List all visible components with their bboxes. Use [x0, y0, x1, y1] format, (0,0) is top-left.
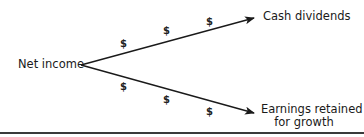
- source-label-net-income: Net income: [18, 58, 84, 71]
- dollar-sign-icon: $: [206, 106, 213, 117]
- dollar-sign-icon: $: [163, 25, 170, 36]
- dollar-sign-icon: $: [120, 81, 127, 92]
- bottom-divider: [0, 132, 364, 134]
- dollar-sign-icon: $: [120, 38, 127, 49]
- dollar-sign-icon: $: [206, 16, 213, 27]
- flow-diagram: Net income Cash dividends Earnings retai…: [0, 0, 364, 137]
- branch-label-cash-dividends: Cash dividends: [263, 10, 350, 23]
- branch-label-line-2: for growth: [261, 116, 347, 129]
- branch-label-retained-earnings: Earnings retained for growth: [261, 103, 347, 129]
- arrow-to-retained-earnings: [81, 65, 254, 113]
- dollar-sign-icon: $: [163, 94, 170, 105]
